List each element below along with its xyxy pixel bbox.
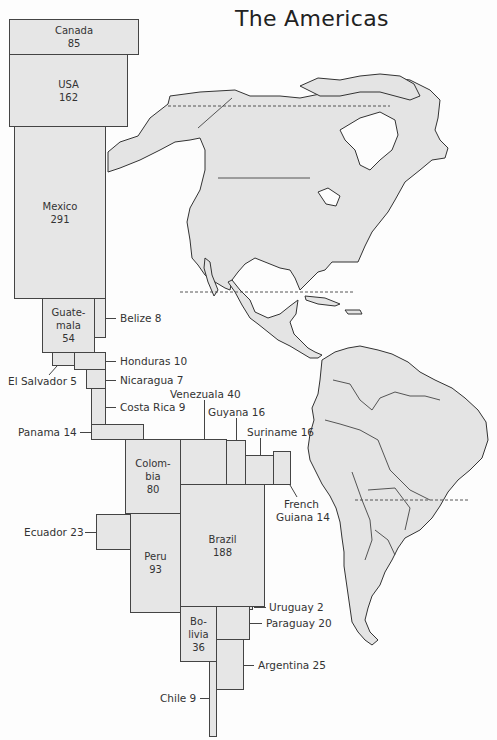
label-panama: Panama 14 <box>18 426 77 438</box>
label-costa-rica: Costa Rica 9 <box>120 401 186 413</box>
label-argentina: Argentina 25 <box>258 659 326 671</box>
label-belize: Belize 8 <box>120 312 162 324</box>
label-honduras: Honduras 10 <box>120 355 187 367</box>
label-uruguay: Uruguay 2 <box>269 601 324 613</box>
label-suriname: Suriname 16 <box>247 426 314 438</box>
label-chile: Chile 9 <box>160 692 196 704</box>
label-french-guiana-line1: French <box>284 498 319 510</box>
label-el-salvador: El Salvador 5 <box>8 375 77 387</box>
diagonal-leaders <box>0 0 497 740</box>
label-french-guiana-line2: Guiana 14 <box>276 511 330 523</box>
label-ecuador: Ecuador 23 <box>24 526 84 538</box>
label-venezuela: Venezuala 40 <box>170 388 241 400</box>
label-nicaragua: Nicaragua 7 <box>120 374 184 386</box>
label-paraguay: Paraguay 20 <box>266 617 332 629</box>
label-guyana: Guyana 16 <box>208 406 265 418</box>
